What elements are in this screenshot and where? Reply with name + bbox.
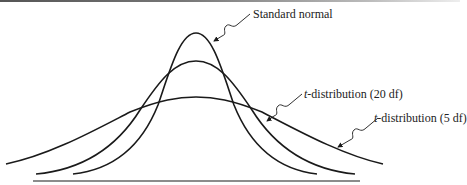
t5-label: t-distribution (5 df)	[374, 112, 467, 124]
standard-normal-text: Standard normal	[253, 7, 333, 21]
standard-normal-leader	[214, 14, 250, 41]
t-distribution-20df-curve	[36, 61, 355, 174]
t5-text: -distribution (5 df)	[377, 111, 466, 125]
t-distribution-5df-curve	[6, 97, 383, 164]
t5-leader	[338, 118, 378, 147]
t20-leader	[267, 94, 302, 121]
standard-normal-label: Standard normal	[253, 8, 333, 20]
standard-normal-curve	[73, 33, 317, 174]
t20-text: -distribution (20 df)	[307, 87, 402, 101]
t20-label: t-distribution (20 df)	[304, 88, 403, 100]
